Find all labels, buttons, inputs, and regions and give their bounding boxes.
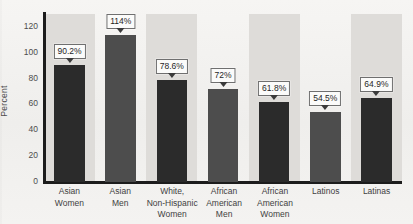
x-category-line: African <box>200 186 249 198</box>
x-category-label: White,Non-HispanicWomen <box>146 186 199 221</box>
x-axis-labels: AsianWomenAsianMenWhite,Non-HispanicWome… <box>44 186 402 221</box>
x-category-label: AfricanAmericanMen <box>199 186 250 221</box>
x-category-line: Asian <box>45 186 94 198</box>
y-tick-label: 100 <box>2 47 38 57</box>
bar-series <box>44 14 402 182</box>
x-category-line: Women <box>147 209 198 221</box>
y-tick-label: 40 <box>2 124 38 134</box>
x-category-label: AfricanAmericanWomen <box>250 186 301 221</box>
data-label: 78.6% <box>156 59 188 74</box>
y-tick-label: 0 <box>2 176 38 186</box>
callout-pointer-icon <box>372 91 380 96</box>
x-category-line: Latinas <box>352 186 401 198</box>
bar-slot <box>197 14 248 182</box>
x-category-line: Non-Hispanic <box>147 198 198 210</box>
data-label: 114% <box>106 14 135 29</box>
x-category-line: White, <box>147 186 198 198</box>
callout-pointer-icon <box>270 95 278 100</box>
data-label: 61.8% <box>258 81 290 96</box>
bar-slot <box>351 14 402 182</box>
x-category-label: AsianMen <box>95 186 146 221</box>
bar <box>259 102 290 182</box>
x-category-line: Men <box>96 198 145 210</box>
x-category-line: Women <box>251 209 300 221</box>
bar <box>157 80 188 182</box>
x-category-line: African <box>251 186 300 198</box>
callout-pointer-icon <box>117 28 125 33</box>
callout-pointer-icon <box>168 73 176 78</box>
x-category-line: Men <box>200 209 249 221</box>
bar <box>361 98 392 182</box>
bar <box>208 89 239 182</box>
x-category-line: American <box>251 198 300 210</box>
x-category-line: American <box>200 198 249 210</box>
bar-slot <box>95 14 146 182</box>
bar <box>105 35 136 182</box>
x-category-line: Women <box>45 198 94 210</box>
bar-slot <box>146 14 197 182</box>
x-category-label: AsianWomen <box>44 186 95 221</box>
x-category-label: Latinos <box>300 186 351 221</box>
callout-pointer-icon <box>219 82 227 87</box>
data-label: 64.9% <box>360 77 392 92</box>
x-category-line: Latinos <box>301 186 350 198</box>
x-category-label: Latinas <box>351 186 402 221</box>
data-label: 90.2% <box>54 44 86 59</box>
bar <box>310 112 341 182</box>
data-label: 72% <box>210 68 235 83</box>
callout-pointer-icon <box>321 105 329 110</box>
x-category-line: Asian <box>96 186 145 198</box>
y-tick-label: 80 <box>2 73 38 83</box>
y-tick-label: 60 <box>2 98 38 108</box>
callout-pointer-icon <box>66 58 74 63</box>
bar-chart: Percent 020406080100120 90.2%114%78.6%72… <box>0 0 413 224</box>
y-tick-label: 120 <box>2 21 38 31</box>
bar-slot <box>44 14 95 182</box>
y-tick-label: 20 <box>2 150 38 160</box>
data-label: 54.5% <box>309 91 341 106</box>
bar <box>54 65 85 182</box>
